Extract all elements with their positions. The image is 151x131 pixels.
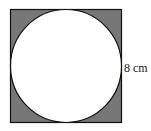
side-length-label: 8 cm bbox=[124, 61, 148, 76]
diagram: 8 cm bbox=[0, 0, 151, 131]
circle bbox=[11, 10, 122, 123]
